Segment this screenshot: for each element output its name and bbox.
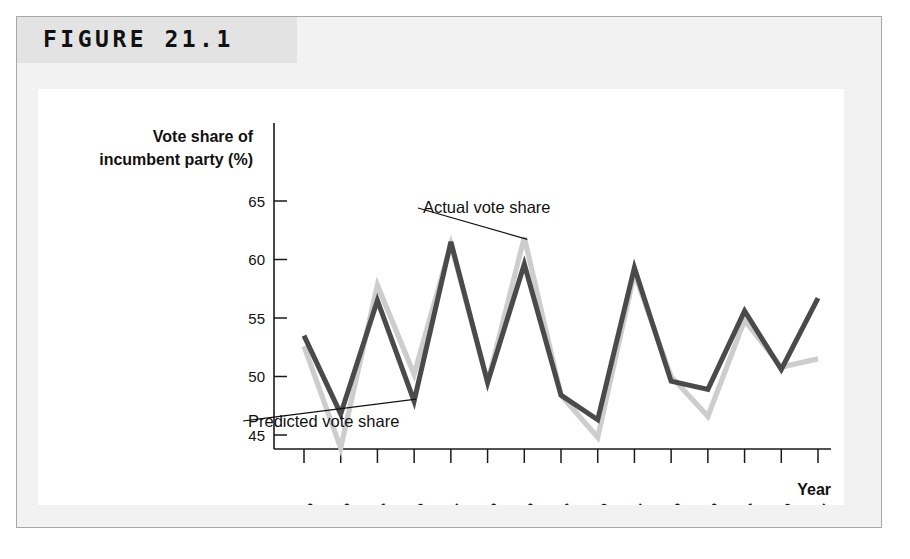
x-tick-label: 1972 (506, 500, 540, 505)
x-tick-label: 1968 (470, 500, 504, 505)
vote-share-line-chart: Vote share of incumbent party (%) 455055… (38, 89, 844, 505)
figure-container: FIGURE 21.1 Vote share of incumbent part… (16, 16, 882, 528)
x-tick-label: 1992 (690, 500, 724, 505)
x-tick-label: 1960 (396, 500, 430, 505)
x-axis-title: Year (797, 481, 831, 498)
x-tick-label: 2004 (800, 500, 834, 505)
plot-canvas: Vote share of incumbent party (%) 455055… (38, 89, 844, 505)
x-axis-ticks: 1948195219561960196419681972197619801984… (286, 449, 834, 505)
x-tick-label: 1980 (580, 500, 614, 505)
x-tick-label: 1988 (653, 500, 687, 505)
y-axis-ticks: 4550556065 (248, 193, 287, 444)
y-tick-label: 60 (248, 251, 265, 268)
x-tick-label: 1964 (433, 500, 467, 505)
y-axis-title-line1: Vote share of (153, 128, 254, 145)
x-tick-label: 1984 (616, 500, 650, 505)
x-tick-label: 1948 (286, 500, 320, 505)
y-tick-label: 55 (248, 310, 265, 327)
annotation-actual-vote-share: Actual vote share (423, 198, 551, 216)
figure-label: FIGURE 21.1 (43, 26, 234, 52)
y-tick-label: 50 (248, 368, 265, 385)
annotation-predicted-vote-share: Predicted vote share (248, 412, 399, 430)
x-tick-label: 1976 (543, 500, 577, 505)
x-tick-label: 2000 (763, 500, 797, 505)
x-tick-label: 1996 (727, 500, 761, 505)
y-axis-title-line2: incumbent party (%) (99, 151, 253, 168)
y-tick-label: 65 (248, 193, 265, 210)
x-tick-label: 1952 (323, 500, 357, 505)
x-tick-label: 1956 (359, 500, 393, 505)
